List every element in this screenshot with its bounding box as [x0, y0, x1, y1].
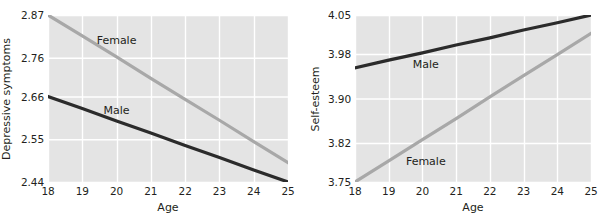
x-tick-label-left-1: 19 — [76, 185, 89, 197]
y-tick-label-left-0: 2.87 — [21, 9, 44, 21]
y-tick-label-left-1: 2.76 — [21, 52, 44, 64]
x-tick-label-right-4: 22 — [483, 185, 496, 197]
gridlines-left — [48, 15, 288, 182]
x-tick-label-right-2: 20 — [416, 185, 429, 197]
x-tick-label-left-3: 21 — [144, 185, 157, 197]
x-axis-title-left: Age — [157, 201, 178, 214]
x-tick-label-left-0: 18 — [41, 185, 54, 197]
x-tick-label-left-2: 20 — [110, 185, 123, 197]
y-tick-label-right-3: 3.82 — [328, 137, 351, 149]
figure-two-panel-line-charts: 2.872.762.662.552.441819202122232425AgeD… — [0, 0, 599, 218]
series-line-female — [355, 33, 591, 182]
panel-self-esteem: 4.053.983.903.823.751819202122232425AgeS… — [300, 0, 599, 218]
y-tick-label-left-2: 2.66 — [21, 91, 44, 103]
plot-canvas-right — [355, 15, 591, 182]
y-axis-title-right: Self-esteem — [309, 66, 322, 131]
y-axis-title-left: Depressive symptoms — [0, 38, 13, 160]
x-tick-label-left-6: 24 — [247, 185, 260, 197]
x-tick-label-right-0: 18 — [348, 185, 361, 197]
x-tick-label-left-5: 23 — [213, 185, 226, 197]
y-tick-label-left-3: 2.55 — [21, 133, 44, 145]
series-label-right-male: Male — [413, 57, 439, 70]
y-tick-label-right-2: 3.90 — [328, 93, 351, 105]
panel-depressive-symptoms: 2.872.762.662.552.441819202122232425AgeD… — [0, 0, 299, 218]
plot-canvas-left — [48, 15, 288, 182]
plot-area-left — [48, 15, 288, 182]
x-tick-label-right-3: 21 — [450, 185, 463, 197]
x-tick-label-left-4: 22 — [179, 185, 192, 197]
x-tick-label-right-6: 24 — [551, 185, 564, 197]
x-axis-title-right: Age — [462, 201, 483, 214]
x-tick-label-left-7: 25 — [281, 185, 294, 197]
y-tick-label-right-1: 3.98 — [328, 48, 351, 60]
series-label-right-female: Female — [406, 155, 446, 168]
series-label-left-female: Female — [97, 34, 137, 47]
plot-area-right — [355, 15, 591, 182]
series-line-male — [355, 15, 591, 68]
x-tick-label-right-1: 19 — [382, 185, 395, 197]
x-tick-label-right-7: 25 — [584, 185, 597, 197]
series-label-left-male: Male — [104, 104, 130, 117]
y-tick-label-right-0: 4.05 — [328, 9, 351, 21]
x-tick-label-right-5: 23 — [517, 185, 530, 197]
